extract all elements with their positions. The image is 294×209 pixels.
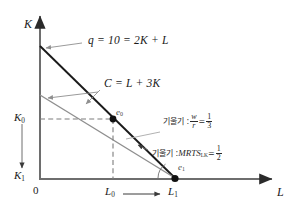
tick-l1-sub: 1 <box>174 191 178 199</box>
mrts-symbol: MRTSLK <box>178 148 208 158</box>
tick-l0-sub: 0 <box>111 191 115 199</box>
leader-isoquant <box>46 43 82 48</box>
annotation-slope-price-equals: = <box>199 117 206 126</box>
dashed-guides <box>40 119 113 179</box>
tick-label-l1: L1 <box>168 186 178 199</box>
annotation-slope-mrts: 기울기 :MRTSLK=12 <box>152 145 223 163</box>
point-e1-marker <box>171 175 178 182</box>
tick-k1-sub: 1 <box>21 175 25 183</box>
annotation-slope-price-prefix: 기울기 : <box>163 117 189 126</box>
tick-k0-sub: 0 <box>21 117 25 125</box>
tick-label-k0: K0 <box>14 112 25 125</box>
mrts-symbol-subscript: LK <box>201 152 208 158</box>
point-e0-sub: 0 <box>120 111 123 117</box>
fraction-one-third-denominator: 3 <box>206 122 212 130</box>
origin-label: 0 <box>33 185 39 196</box>
tick-label-l0: L0 <box>105 186 115 199</box>
isoquant-equation-label: q = 10 = 2K + L <box>88 35 169 47</box>
tick-label-k1: K1 <box>14 170 25 183</box>
fraction-r-denominator: r <box>190 122 197 130</box>
mrts-symbol-base: MRTS <box>178 148 201 158</box>
y-axis-label: K <box>24 18 32 30</box>
x-axis-label: L <box>277 186 284 198</box>
fraction-one-half: 12 <box>216 145 222 163</box>
point-label-e0: e0 <box>116 108 123 118</box>
fraction-one-third: 13 <box>206 113 212 131</box>
fraction-w-over-r: wr <box>190 113 197 131</box>
annotation-slope-mrts-prefix: 기울기 : <box>152 149 178 158</box>
fraction-one-half-denominator: 2 <box>216 154 222 162</box>
point-e1-sub: 1 <box>182 166 185 172</box>
figure-canvas <box>0 0 294 209</box>
economics-isoquant-isocost-figure: K L 0 K0 K1 L0 L1 q = 10 = 2K + L C = L … <box>0 0 294 209</box>
isocost-line <box>40 95 175 178</box>
annotation-slope-price: 기울기 :wr=13 <box>163 113 213 131</box>
annotation-slope-mrts-equals: = <box>208 149 215 158</box>
isocost-equation-label: C = L + 3K <box>104 78 160 90</box>
point-label-e1: e1 <box>178 163 185 173</box>
